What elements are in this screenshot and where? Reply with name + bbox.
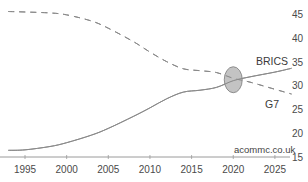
brics-line <box>8 68 291 150</box>
x-tick-label: 1995 <box>14 164 37 175</box>
series-layer <box>8 12 291 151</box>
x-tick-label: 2020 <box>222 164 245 175</box>
x-axis: 1995200020052010201520202025 <box>0 155 290 175</box>
g7-line <box>8 12 291 95</box>
g7-label: G7 <box>265 98 279 110</box>
y-tick-label: 35 <box>292 57 304 68</box>
x-tick-label: 2005 <box>97 164 120 175</box>
x-tick-label: 2010 <box>139 164 162 175</box>
y-tick-label: 25 <box>292 104 304 115</box>
y-tick-label: 30 <box>292 80 304 91</box>
series-overlay <box>8 12 291 151</box>
x-tick-label: 2015 <box>180 164 203 175</box>
y-tick-label: 40 <box>292 33 304 44</box>
brics-line <box>8 68 291 150</box>
y-tick-label: 45 <box>292 9 304 20</box>
line-chart: 1995200020052010201520202025 15202530354… <box>0 0 308 182</box>
y-tick-label: 20 <box>292 128 304 139</box>
credit-text: acommc.co.uk <box>234 144 295 155</box>
y-axis: 15202530354045 <box>292 9 304 163</box>
brics-label: BRICS <box>256 55 288 67</box>
x-tick-label: 2025 <box>264 164 287 175</box>
x-tick-label: 2000 <box>56 164 79 175</box>
